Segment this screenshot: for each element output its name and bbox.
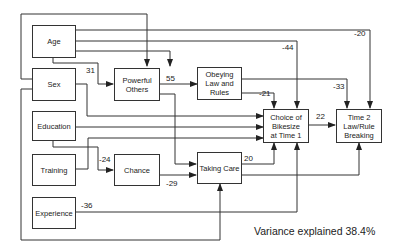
coef-choice-to-time2: 22 bbox=[316, 113, 325, 121]
edge-powerful-to-taking-care bbox=[159, 94, 196, 164]
node-chance: Chance bbox=[114, 154, 160, 186]
node-age: Age bbox=[32, 25, 76, 58]
coef-education-to-chance: -24 bbox=[99, 156, 111, 164]
node-education: Education bbox=[32, 111, 76, 141]
coef-powerful-to-obeying: 55 bbox=[166, 75, 175, 83]
node-obeying-law-and-rules: Obeying Law and Rules bbox=[197, 67, 242, 100]
node-training: Training bbox=[32, 154, 76, 186]
coef-sex-to-powerful-others: 31 bbox=[86, 67, 95, 75]
coef-obeying-to-time2: -33 bbox=[333, 83, 345, 91]
edge-age-to-obeying bbox=[75, 51, 170, 66]
coef-chance-to-taking-care: -29 bbox=[166, 180, 178, 188]
node-taking-care: Taking Care bbox=[197, 152, 242, 184]
node-sex: Sex bbox=[32, 68, 76, 101]
coef-age-to-time2: -20 bbox=[354, 30, 366, 38]
node-time2-law-rule-breaking: Time 2 Law/Rule Breaking bbox=[336, 109, 382, 143]
coef-obeying-to-choice: -21 bbox=[259, 90, 271, 98]
edge-taking-care-to-time2 bbox=[241, 143, 359, 175]
variance-explained: Variance explained 38.4% bbox=[254, 225, 375, 237]
coef-taking-care-to-choice: 20 bbox=[244, 155, 253, 163]
node-choice-of-bikesize: Choice of Bikesize at Time 1 bbox=[263, 109, 309, 143]
node-experience: Experience bbox=[32, 197, 76, 229]
coef-experience-to-choice: -36 bbox=[81, 202, 93, 210]
coef-age-to-choice: -44 bbox=[282, 44, 294, 52]
node-powerful-others: Powerful Others bbox=[114, 68, 160, 101]
edge-experience-to-choice bbox=[75, 143, 297, 212]
